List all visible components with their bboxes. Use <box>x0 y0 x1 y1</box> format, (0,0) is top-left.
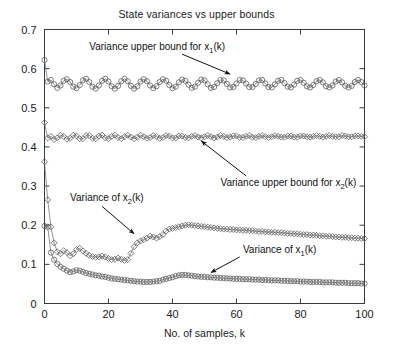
x-tick-label: 60 <box>230 308 242 320</box>
y-tick-label: 0 <box>30 298 36 310</box>
series-1 <box>42 57 367 91</box>
series-group <box>42 57 368 286</box>
annotation-arrow <box>182 54 230 74</box>
x-tick-label: 40 <box>166 308 178 320</box>
annotation-label: Variance upper bound for x2(k) <box>221 177 357 191</box>
annotation-variance-x2: Variance of x2(k) <box>70 192 143 234</box>
y-tick-label: 0.7 <box>21 24 36 36</box>
y-tick-label: 0.5 <box>21 102 36 114</box>
series-3 <box>42 159 368 264</box>
y-tick-label: 0.3 <box>21 180 36 192</box>
series-line <box>45 123 365 140</box>
annotation-label: Variance of x1(k) <box>243 244 316 258</box>
figure: State variances vs upper bounds 00.10.20… <box>0 0 393 350</box>
annotation-upper-bound-x2: Variance upper bound for x2(k) <box>201 141 356 191</box>
annotation-variance-x1: Variance of x1(k) <box>211 244 316 272</box>
annotation-label: Variance of x2(k) <box>70 192 143 206</box>
y-tick-label: 0.6 <box>21 63 36 75</box>
x-axis-title: No. of samples, k <box>164 327 246 339</box>
plot-box <box>45 30 365 304</box>
annotation-label: Variance upper bound for x1(k) <box>89 41 225 55</box>
x-tick-label: 100 <box>355 308 373 320</box>
x-tick-label: 20 <box>102 308 114 320</box>
annotation-upper-bound-x1: Variance upper bound for x1(k) <box>89 41 230 74</box>
x-tick-label: 0 <box>41 308 47 320</box>
series-4 <box>42 223 367 286</box>
series-2 <box>42 120 368 143</box>
annotation-arrow <box>211 257 240 273</box>
plot-area: 00.10.20.30.40.50.60.7020406080100No. of… <box>0 0 393 350</box>
x-tick-label: 80 <box>294 308 306 320</box>
series-line <box>45 226 365 284</box>
annotation-arrow <box>102 206 134 233</box>
annotation-arrow <box>201 141 246 176</box>
y-tick-label: 0.4 <box>21 141 36 153</box>
y-tick-label: 0.1 <box>21 258 36 270</box>
y-tick-label: 0.2 <box>21 219 36 231</box>
